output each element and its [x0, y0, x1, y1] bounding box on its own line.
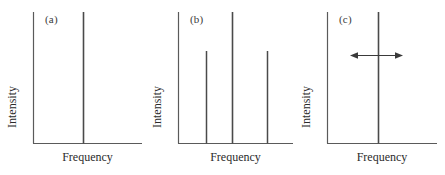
panel-a-label: (a): [45, 13, 58, 25]
panel-b-label: (b): [190, 13, 203, 25]
panel-b: (b) Intensity Frequency: [148, 0, 303, 175]
panel-c-plot: [296, 0, 445, 175]
broadening-arrow-icon: [350, 52, 403, 59]
panel-c-ylabel: Intensity: [299, 86, 314, 128]
panel-b-ylabel: Intensity: [150, 86, 165, 128]
panel-b-plot: [148, 0, 303, 175]
panel-a-xlabel: Frequency: [33, 150, 142, 165]
panel-b-xlabel: Frequency: [178, 150, 293, 165]
panel-c: (c) Intensity Frequency: [296, 0, 445, 175]
panel-a-plot: [0, 0, 150, 175]
panel-a: (a) Intensity Frequency: [0, 0, 150, 175]
panel-a-ylabel: Intensity: [5, 86, 20, 128]
panel-c-xlabel: Frequency: [327, 150, 437, 165]
panel-c-label: (c): [339, 13, 352, 25]
spectral-line-figure: (a) Intensity Frequency (b) Intensity Fr…: [0, 0, 445, 175]
